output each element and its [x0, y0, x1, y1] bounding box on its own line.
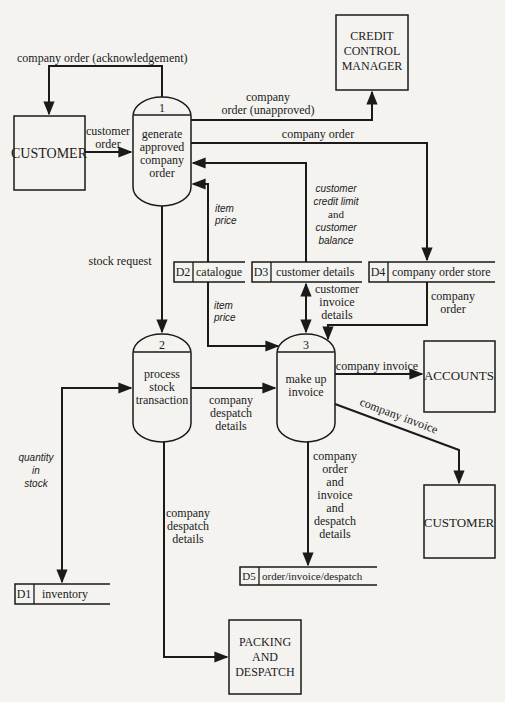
- svg-text:2: 2: [159, 338, 165, 352]
- svg-text:customer: customer: [86, 124, 130, 138]
- flow-order-invoice-despatch-to-d5: company order and invoice and despatch d…: [308, 442, 357, 565]
- svg-text:company order store: company order store: [392, 265, 491, 279]
- svg-text:order: order: [95, 137, 120, 151]
- svg-text:AND: AND: [252, 650, 278, 664]
- svg-text:DESPATCH: DESPATCH: [235, 665, 295, 679]
- flow-company-despatch-details-horizontal: company despatch details: [191, 388, 275, 433]
- process-3-make-up-invoice[interactable]: 3 make up invoice: [277, 334, 335, 442]
- process-1-generate-approved-company-order[interactable]: 1 generate approved company order: [133, 97, 191, 206]
- svg-text:invoice: invoice: [288, 385, 323, 399]
- svg-text:stock: stock: [24, 478, 48, 489]
- flow-item-price-to-process-3: item price: [208, 282, 278, 346]
- datastore-d4-company-order-store[interactable]: D4 company order store: [369, 262, 495, 282]
- svg-text:quantity: quantity: [18, 452, 54, 463]
- entity-credit-control-manager[interactable]: CREDIT CONTROL MANAGER: [336, 15, 408, 90]
- entity-packing-and-despatch[interactable]: PACKING AND DESPATCH: [229, 620, 301, 694]
- svg-text:customer: customer: [315, 282, 359, 296]
- svg-text:order (unapproved): order (unapproved): [222, 103, 315, 117]
- svg-text:company: company: [431, 289, 475, 303]
- svg-text:D3: D3: [254, 265, 269, 279]
- svg-text:D1: D1: [17, 587, 32, 601]
- svg-text:despatch: despatch: [314, 514, 356, 528]
- datastore-d1-inventory[interactable]: D1 inventory: [15, 584, 110, 604]
- flow-item-price-to-process-1: item price: [193, 184, 237, 262]
- svg-text:company order (acknowledgement: company order (acknowledgement): [17, 51, 188, 65]
- svg-text:order: order: [322, 462, 347, 476]
- svg-text:despatch: despatch: [210, 406, 252, 420]
- svg-text:in: in: [32, 465, 40, 476]
- svg-text:company: company: [209, 393, 253, 407]
- svg-text:PACKING: PACKING: [239, 635, 292, 649]
- flow-company-order-to-d4: company order: [191, 127, 427, 260]
- svg-text:CREDIT: CREDIT: [350, 29, 394, 43]
- svg-text:details: details: [172, 532, 204, 546]
- svg-text:details: details: [215, 419, 247, 433]
- svg-text:MANAGER: MANAGER: [342, 59, 403, 73]
- svg-text:customer details: customer details: [276, 265, 355, 279]
- svg-text:and: and: [326, 475, 343, 489]
- svg-text:company: company: [140, 153, 184, 167]
- svg-text:stock: stock: [149, 380, 174, 394]
- flow-stock-request: stock request: [89, 206, 162, 332]
- svg-text:D4: D4: [371, 265, 386, 279]
- svg-text:approved: approved: [140, 140, 185, 154]
- svg-text:company order: company order: [282, 127, 354, 141]
- svg-text:stock request: stock request: [89, 254, 153, 268]
- flow-company-invoice-to-customer: company invoice: [335, 395, 459, 483]
- svg-text:company invoice: company invoice: [358, 395, 440, 437]
- svg-text:details: details: [321, 308, 353, 322]
- svg-text:invoice: invoice: [319, 295, 354, 309]
- svg-text:order/invoice/despatch: order/invoice/despatch: [262, 570, 363, 582]
- svg-text:D5: D5: [242, 570, 256, 582]
- svg-text:invoice: invoice: [317, 488, 352, 502]
- entity-customer-right[interactable]: CUSTOMER: [424, 485, 495, 558]
- svg-text:company: company: [166, 506, 210, 520]
- svg-text:and: and: [326, 501, 343, 515]
- svg-text:price: price: [213, 312, 236, 323]
- svg-text:order: order: [440, 302, 465, 316]
- svg-text:credit limit: credit limit: [313, 196, 359, 207]
- svg-text:inventory: inventory: [42, 587, 88, 601]
- svg-text:ACCOUNTS: ACCOUNTS: [424, 368, 494, 383]
- datastore-d3-customer-details[interactable]: D3 customer details: [252, 262, 362, 282]
- data-flow-diagram: CUSTOMER CREDIT CONTROL MANAGER ACCOUNTS…: [0, 0, 505, 702]
- svg-text:process: process: [144, 367, 180, 381]
- flow-customer-order: customer order: [85, 124, 131, 152]
- entity-customer-left[interactable]: CUSTOMER: [11, 116, 88, 190]
- svg-text:company: company: [313, 449, 357, 463]
- svg-text:CONTROL: CONTROL: [344, 44, 401, 58]
- flow-company-invoice-to-accounts: company invoice: [335, 359, 422, 374]
- svg-text:D2: D2: [176, 265, 191, 279]
- svg-text:company invoice: company invoice: [336, 359, 418, 373]
- flow-company-despatch-details-to-packing: company despatch details: [164, 442, 227, 657]
- svg-text:and: and: [328, 208, 344, 220]
- svg-text:balance: balance: [318, 235, 353, 246]
- svg-text:customer: customer: [315, 183, 357, 194]
- svg-text:details: details: [319, 527, 351, 541]
- svg-text:transaction: transaction: [136, 393, 189, 407]
- svg-text:generate: generate: [142, 127, 183, 141]
- datastore-d2-catalogue[interactable]: D2 catalogue: [174, 262, 245, 282]
- process-2-process-stock-transaction[interactable]: 2 process stock transaction: [133, 334, 191, 442]
- datastore-d5-order-invoice-despatch[interactable]: D5 order/invoice/despatch: [240, 567, 377, 585]
- svg-text:price: price: [214, 215, 237, 226]
- svg-text:order: order: [149, 166, 174, 180]
- svg-text:item: item: [214, 300, 233, 311]
- svg-text:1: 1: [159, 101, 165, 115]
- svg-text:despatch: despatch: [167, 519, 209, 533]
- flow-company-order-unapproved: company order (unapproved): [191, 90, 372, 120]
- entity-accounts[interactable]: ACCOUNTS: [424, 341, 495, 412]
- svg-text:customer: customer: [315, 222, 357, 233]
- flow-quantity-in-stock: quantity in stock: [18, 388, 131, 582]
- svg-text:3: 3: [303, 338, 309, 352]
- svg-text:item: item: [215, 203, 234, 214]
- svg-text:CUSTOMER: CUSTOMER: [424, 515, 495, 530]
- svg-text:company: company: [246, 90, 290, 104]
- svg-text:catalogue: catalogue: [196, 265, 242, 279]
- svg-text:CUSTOMER: CUSTOMER: [11, 146, 88, 161]
- svg-text:make up: make up: [286, 372, 327, 386]
